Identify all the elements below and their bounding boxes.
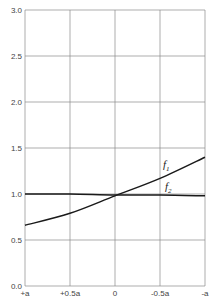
- y-tick-label: 2.5: [11, 52, 23, 61]
- y-tick-label: 1.5: [11, 144, 23, 153]
- y-tick-label: 3.0: [11, 6, 23, 15]
- grid-lines: [25, 10, 205, 286]
- y-tick-label: 2.0: [11, 98, 23, 107]
- x-tick-label: 0: [113, 289, 118, 298]
- label-f1: f1: [163, 158, 170, 173]
- x-tick-label: +0.5a: [60, 289, 81, 298]
- x-axis-ticks: +a+0.5a0-0.5a-a: [20, 289, 209, 298]
- x-tick-label: -0.5a: [151, 289, 170, 298]
- y-tick-label: 1.0: [11, 190, 23, 199]
- label-f2: f2: [165, 180, 172, 195]
- x-tick-label: -a: [201, 289, 209, 298]
- y-axis-ticks: 0.00.51.01.52.02.53.0: [11, 6, 23, 291]
- y-tick-label: 0.5: [11, 236, 23, 245]
- chart: 0.00.51.01.52.02.53.0 +a+0.5a0-0.5a-a f1…: [0, 0, 210, 302]
- x-tick-label: +a: [20, 289, 30, 298]
